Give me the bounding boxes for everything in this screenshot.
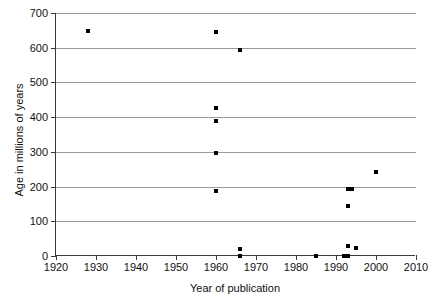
data-point xyxy=(214,119,218,123)
scatter-chart: 0100200300400500600700192019301940195019… xyxy=(0,0,430,305)
x-axis-label: 1940 xyxy=(124,262,148,273)
x-axis-label: 1950 xyxy=(164,262,188,273)
data-point xyxy=(238,254,242,258)
x-axis-label: 1930 xyxy=(84,262,108,273)
x-axis-tick xyxy=(336,255,337,260)
x-axis-label: 2010 xyxy=(404,262,428,273)
data-point xyxy=(354,246,358,250)
data-point xyxy=(86,29,90,33)
x-axis-tick xyxy=(296,255,297,260)
data-point xyxy=(346,244,350,248)
y-axis-label: 400 xyxy=(30,112,48,123)
y-axis-tick xyxy=(51,82,56,83)
y-gridline xyxy=(56,117,416,118)
y-gridline xyxy=(56,13,416,14)
y-axis-label: 600 xyxy=(30,42,48,53)
x-axis-tick xyxy=(176,255,177,260)
y-gridline xyxy=(56,152,416,153)
y-axis-tick xyxy=(51,48,56,49)
data-point xyxy=(346,204,350,208)
y-axis-title: Age in millions of years xyxy=(13,65,25,215)
y-axis-label: 700 xyxy=(30,8,48,19)
data-point xyxy=(214,106,218,110)
x-axis-label: 1990 xyxy=(324,262,348,273)
x-axis-label: 1980 xyxy=(284,262,308,273)
data-point xyxy=(214,151,218,155)
y-axis-label: 100 xyxy=(30,216,48,227)
x-axis-label: 1960 xyxy=(204,262,228,273)
x-axis-tick xyxy=(136,255,137,260)
y-gridline xyxy=(56,48,416,49)
y-axis-tick xyxy=(51,187,56,188)
data-point xyxy=(374,170,378,174)
x-axis-label: 1920 xyxy=(44,262,68,273)
x-axis-title: Year of publication xyxy=(55,282,415,294)
x-axis-label: 2000 xyxy=(364,262,388,273)
x-axis-label: 1970 xyxy=(244,262,268,273)
y-axis-tick xyxy=(51,117,56,118)
x-axis-tick xyxy=(216,255,217,260)
x-axis-tick xyxy=(96,255,97,260)
y-gridline xyxy=(56,187,416,188)
data-point xyxy=(238,48,242,52)
data-point xyxy=(346,254,350,258)
y-gridline xyxy=(56,221,416,222)
y-axis-label: 300 xyxy=(30,146,48,157)
y-axis-label: 200 xyxy=(30,181,48,192)
y-axis-tick xyxy=(51,221,56,222)
x-axis-tick xyxy=(256,255,257,260)
plot-area: 0100200300400500600700192019301940195019… xyxy=(55,13,415,256)
y-gridline xyxy=(56,82,416,83)
data-point xyxy=(238,247,242,251)
y-axis-label: 0 xyxy=(42,251,48,262)
x-axis-tick xyxy=(376,255,377,260)
y-axis-tick xyxy=(51,152,56,153)
x-axis-tick xyxy=(416,255,417,260)
data-point xyxy=(350,187,354,191)
y-axis-tick xyxy=(51,13,56,14)
data-point xyxy=(314,254,318,258)
x-axis-tick xyxy=(56,255,57,260)
data-point xyxy=(214,30,218,34)
data-point xyxy=(214,189,218,193)
y-axis-label: 500 xyxy=(30,77,48,88)
